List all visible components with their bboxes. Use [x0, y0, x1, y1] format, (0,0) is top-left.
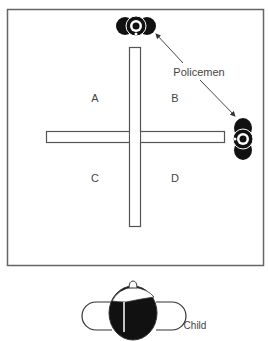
child-label: Child: [184, 320, 207, 331]
quadrant-label-c: C: [91, 172, 99, 184]
policemen-label: Policemen: [173, 66, 224, 78]
quadrant-label-d: D: [171, 172, 179, 184]
policeman-right-icon: [233, 118, 253, 160]
quadrant-label-b: B: [171, 92, 178, 104]
arrow-to-right-policeman: [200, 80, 235, 116]
child-icon: [82, 281, 186, 340]
arrow-to-top-policeman: [156, 34, 183, 63]
policeman-top-icon: [116, 16, 156, 36]
diagram-canvas: [0, 0, 268, 341]
quadrant-label-a: A: [91, 92, 98, 104]
